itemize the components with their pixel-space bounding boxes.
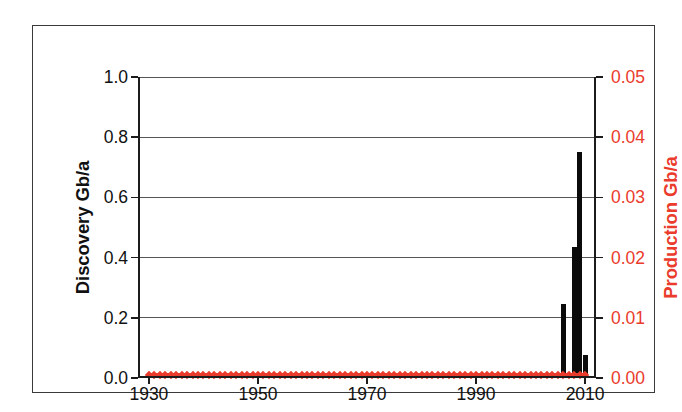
y-axis-left-tick [131,76,138,78]
gridline [138,137,596,138]
y-axis-right-title: Production Gb/a [658,77,682,378]
y-axis-right-tick-label: 0.05 [611,67,645,88]
y-axis-right-tick [596,257,603,259]
y-axis-right-tick-label: 0.03 [611,187,645,208]
y-axis-left-title: Discovery Gb/a [70,77,96,378]
y-axis-left-tick-label: 1.0 [104,67,128,88]
x-axis-tick-label: 1990 [457,384,496,405]
y-axis-right-tick-label: 0.01 [611,307,645,328]
y-axis-right-tick [596,76,603,78]
y-axis-left-tick-label: 0.6 [104,187,128,208]
x-axis-tick-label: 1930 [129,384,168,405]
gridline [138,197,596,198]
discovery-bar [561,304,566,376]
y-axis-right-tick [596,136,603,138]
x-axis-tick-label: 1950 [238,384,277,405]
y-axis-left-tick [131,197,138,199]
gridline [138,257,596,258]
y-axis-right-tick-label: 0.04 [611,127,645,148]
y-axis-left-tick [131,257,138,259]
y-axis-left-tick [131,377,138,379]
gridline [138,77,596,78]
discovery-bar [583,355,588,376]
discovery-bar [577,152,582,376]
y-axis-left-tick [131,317,138,319]
y-axis-left-tick-label: 0.2 [104,307,128,328]
y-axis-right-tick-label: 0.00 [611,368,645,389]
plot-area: 0.00.20.40.60.81.0 0.000.010.020.030.040… [138,77,596,378]
y-axis-left-line [138,77,140,378]
gridline [138,317,596,318]
x-axis-tick-label: 1970 [348,384,387,405]
y-axis-left-tick [131,136,138,138]
y-axis-left-tick-label: 0.8 [104,127,128,148]
y-axis-right-line [594,77,596,378]
y-axis-right-tick-label: 0.02 [611,247,645,268]
x-axis-tick-label: 2010 [566,384,605,405]
y-axis-left-tick-label: 0.0 [104,368,128,389]
y-axis-right-tick [596,197,603,199]
plot-background [138,77,596,378]
figure-frame: 0.00.20.40.60.81.0 0.000.010.020.030.040… [32,25,655,393]
y-axis-right-tick [596,377,603,379]
y-axis-right-tick [596,317,603,319]
discovery-bar [572,247,577,376]
y-axis-left-tick-label: 0.4 [104,247,128,268]
